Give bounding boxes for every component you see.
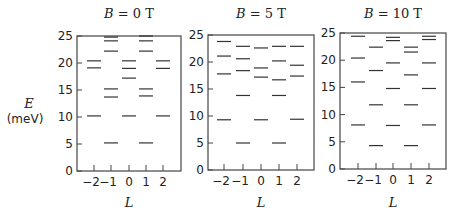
y-tick-label: 5 [328,135,336,149]
panel-title: B = 10 T [363,6,422,21]
panel-0: B = 0 T0510152025−2−1012L [58,6,181,210]
panel-title: B = 5 T [235,6,286,21]
panel-2: B = 10 T0510152025−2−1012L [321,6,446,210]
x-tick-label: 2 [425,173,433,187]
y-tick-label: 0 [196,163,204,177]
x-tick-label: −1 [231,174,249,188]
x-tick-label: 2 [293,174,301,188]
x-tick-label: −2 [212,174,230,188]
y-axis-label: E(meV) [7,96,44,126]
plot-frame [77,36,181,171]
x-tick-label: 1 [142,175,150,189]
x-tick-label: 1 [407,173,415,187]
x-axis-label: L [124,195,134,210]
y-tick-label: 25 [189,28,204,42]
y-tick-label: 25 [58,29,73,43]
plot-frame [340,33,446,169]
energy-level-chart: E(meV)B = 0 T0510152025−2−1012LB = 5 T05… [0,0,463,217]
y-axis-unit: (meV) [7,112,44,126]
y-tick-label: 10 [58,110,73,124]
x-tick-label: 0 [389,173,397,187]
plot-frame [208,35,314,170]
x-tick-label: −1 [99,175,117,189]
y-tick-label: 20 [58,56,73,70]
x-tick-label: −2 [82,175,100,189]
x-axis-label: L [256,195,266,210]
y-tick-label: 20 [321,53,336,67]
y-tick-label: 10 [189,109,204,123]
x-tick-label: 2 [159,175,167,189]
x-tick-label: 0 [257,174,265,188]
x-tick-label: −2 [346,173,364,187]
panel-title: B = 0 T [103,6,154,21]
y-tick-label: 15 [58,83,73,97]
y-axis-symbol: E [23,96,34,111]
y-tick-label: 20 [189,55,204,69]
y-tick-label: 10 [321,108,336,122]
y-tick-label: 15 [189,82,204,96]
y-tick-label: 5 [196,136,204,150]
x-tick-label: −1 [364,173,382,187]
y-tick-label: 5 [65,137,73,151]
y-tick-label: 15 [321,80,336,94]
x-tick-label: 0 [125,175,133,189]
y-tick-label: 0 [65,164,73,178]
y-tick-label: 0 [328,162,336,176]
y-tick-label: 25 [321,26,336,40]
x-tick-label: 1 [275,174,283,188]
panel-1: B = 5 T0510152025−2−1012L [189,6,314,210]
x-axis-label: L [388,195,398,210]
